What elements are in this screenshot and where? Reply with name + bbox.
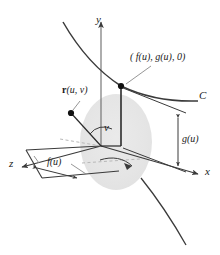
y-axis-label: y <box>96 14 101 25</box>
x-axis-label: x <box>205 166 210 177</box>
z-leader-tick <box>34 156 39 163</box>
leader-line-vector-label <box>73 101 80 110</box>
leader-line-point-label <box>126 66 151 84</box>
height-g-label: g(u) <box>182 134 199 144</box>
curve-c-upper <box>63 22 121 86</box>
surface-of-revolution-shading <box>80 94 152 190</box>
f-leader-line <box>71 164 86 174</box>
radius-f-label: f(u) <box>47 157 61 167</box>
z-axis-label: z <box>9 158 13 169</box>
curve-c-right <box>121 86 198 101</box>
vector-r-label: r(u, v) <box>62 85 88 95</box>
point-on-curve-label: ( f(u), g(u), 0) <box>130 52 185 62</box>
base-plane-front-edge <box>26 150 42 178</box>
angle-v-label: v <box>104 122 109 133</box>
vector-r-arguments: (u, v) <box>66 84 87 95</box>
point-r-marker <box>68 110 74 116</box>
curve-c-label: C <box>199 90 206 101</box>
figure-canvas <box>0 0 220 255</box>
curve-revolved-lower <box>141 178 186 245</box>
surface-of-revolution-figure: y x z ( f(u), g(u), 0) r(u, v) v C f(u) … <box>0 0 220 255</box>
